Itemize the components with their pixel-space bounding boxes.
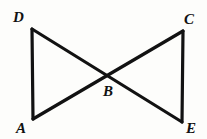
vertex-label-b: B [103, 84, 113, 99]
vertex-label-c: C [184, 12, 194, 27]
vertex-label-d: D [13, 10, 24, 25]
segment-ce [182, 31, 183, 122]
geometry-canvas [0, 0, 207, 139]
geometry-figure: D C A E B [0, 0, 207, 139]
vertex-label-a: A [16, 121, 26, 136]
segment-da [32, 29, 33, 119]
vertex-label-e: E [186, 121, 196, 136]
